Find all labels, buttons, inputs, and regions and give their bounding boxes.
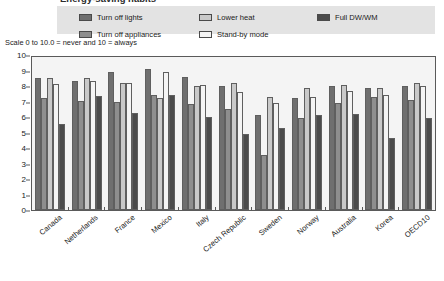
x-axis-label-text: Italy xyxy=(194,213,210,229)
bar-group xyxy=(71,57,103,210)
chart-title: Energy-saving habits xyxy=(60,0,156,4)
bar-group xyxy=(218,57,250,210)
legend-swatch-icon xyxy=(79,31,92,38)
bar[interactable] xyxy=(59,124,65,210)
bar-group xyxy=(181,57,213,210)
chart-legend: Turn off lightsTurn off appliancesLower … xyxy=(57,6,435,34)
bar-group xyxy=(254,57,286,210)
x-axis-group-separator xyxy=(178,207,179,211)
x-axis-group-separator xyxy=(215,207,216,211)
x-axis-label: Canada xyxy=(37,213,63,237)
bar-groups xyxy=(32,57,435,210)
legend-swatch-icon xyxy=(79,14,92,21)
x-axis-label-text: Norway xyxy=(296,213,322,236)
legend-item[interactable]: Stand-by mode xyxy=(199,27,269,41)
bar[interactable] xyxy=(279,128,285,210)
bar[interactable] xyxy=(132,113,138,210)
x-axis-label-text: Korea xyxy=(373,213,394,233)
x-axis-group-separator xyxy=(104,207,105,211)
legend-label: Full DW/WM xyxy=(335,13,378,22)
bar-group xyxy=(291,57,323,210)
x-axis-labels: CanadaNetherlandsFranceMexicoItalyCzech … xyxy=(31,213,436,279)
x-axis-label-text: Canada xyxy=(37,213,63,237)
bar[interactable] xyxy=(316,115,322,210)
y-axis-tick-mark xyxy=(26,71,30,72)
x-axis-label: Australia xyxy=(329,213,357,239)
x-axis-group-separator xyxy=(325,207,326,211)
bar-group xyxy=(328,57,360,210)
x-axis-label: Italy xyxy=(194,213,210,229)
x-axis-group-separator xyxy=(68,207,69,211)
legend-label: Stand-by mode xyxy=(217,30,269,39)
y-axis-tick-mark xyxy=(26,56,30,57)
y-axis-tick-mark xyxy=(26,118,30,119)
bar-group xyxy=(365,57,397,210)
bar[interactable] xyxy=(206,117,212,210)
x-axis-label: Norway xyxy=(296,213,322,236)
x-axis-label: Netherlands xyxy=(63,213,100,246)
bar[interactable] xyxy=(353,114,359,210)
legend-item[interactable]: Full DW/WM xyxy=(317,10,378,24)
bar[interactable] xyxy=(169,95,175,211)
x-axis-label-text: Sweden xyxy=(257,213,284,238)
legend-item[interactable]: Turn off lights xyxy=(79,10,161,24)
legend-label: Turn off lights xyxy=(97,13,143,22)
bar[interactable] xyxy=(243,134,249,211)
x-axis-label: France xyxy=(113,213,137,235)
y-axis-tick-mark xyxy=(26,133,30,134)
x-axis-label: Korea xyxy=(373,213,394,233)
x-axis-label-text: Mexico xyxy=(150,213,174,235)
y-axis: 012345678910 xyxy=(0,56,30,211)
x-axis-group-separator xyxy=(141,207,142,211)
x-axis-group-separator xyxy=(288,207,289,211)
legend-swatch-icon xyxy=(199,14,212,21)
chart-subtitle: Scale 0 to 10.0 = never and 10 = always xyxy=(5,38,137,47)
plot-wrapper: 012345678910 CanadaNetherlandsFranceMexi… xyxy=(0,50,444,281)
bar[interactable] xyxy=(426,118,432,210)
y-axis-tick-mark xyxy=(26,87,30,88)
x-axis-group-separator xyxy=(398,207,399,211)
y-axis-tick-mark xyxy=(26,149,30,150)
legend-column: Turn off lightsTurn off appliances xyxy=(79,6,161,34)
y-axis-tick-label: 10 xyxy=(17,52,26,60)
bar-group xyxy=(107,57,139,210)
legend-item[interactable]: Lower heat xyxy=(199,10,269,24)
plot-area xyxy=(31,56,436,211)
y-axis-tick-mark xyxy=(26,164,30,165)
legend-column: Lower heatStand-by mode xyxy=(199,6,269,34)
x-axis-label-text: OECD10 xyxy=(402,213,431,239)
x-axis-label-text: Australia xyxy=(329,213,357,239)
legend-swatch-icon xyxy=(317,14,330,21)
bar-group xyxy=(34,57,66,210)
bar[interactable] xyxy=(389,138,395,210)
y-axis-tick-mark xyxy=(26,180,30,181)
bar[interactable] xyxy=(96,96,102,210)
y-axis-tick-mark xyxy=(26,102,30,103)
x-axis-label: Sweden xyxy=(257,213,284,238)
bar-group xyxy=(144,57,176,210)
x-axis-label: OECD10 xyxy=(402,213,431,239)
legend-swatch-icon xyxy=(199,31,212,38)
legend-column: Full DW/WM xyxy=(317,6,378,34)
x-axis-group-separator xyxy=(251,207,252,211)
y-axis-tick-mark xyxy=(26,195,30,196)
x-axis-label-text: France xyxy=(113,213,137,235)
legend-label: Lower heat xyxy=(217,13,255,22)
y-axis-tick-mark xyxy=(26,211,30,212)
x-axis-label: Mexico xyxy=(150,213,174,235)
x-axis-label-text: Netherlands xyxy=(63,213,100,246)
bar-group xyxy=(401,57,433,210)
x-axis-group-separator xyxy=(362,207,363,211)
